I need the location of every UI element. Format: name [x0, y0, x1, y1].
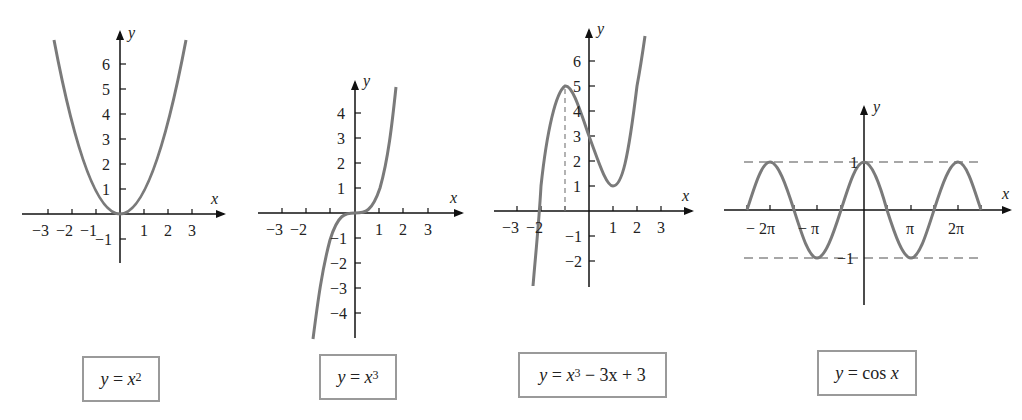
svg-text:1: 1 — [337, 180, 345, 197]
y-axis-label: y — [126, 24, 136, 42]
svg-text:3: 3 — [188, 222, 196, 239]
svg-text:−2: −2 — [56, 222, 73, 239]
svg-text:x: x — [1001, 185, 1009, 202]
svg-text:5: 5 — [102, 81, 110, 98]
svg-text:x: x — [449, 189, 457, 206]
svg-text:1: 1 — [140, 222, 148, 239]
svg-text:π: π — [906, 220, 914, 237]
svg-text:6: 6 — [102, 56, 110, 73]
svg-text:−1: −1 — [95, 231, 112, 248]
svg-text:−1: −1 — [330, 230, 347, 247]
plot-x-squared: y x −3 −2 −1 1 2 3 1 2 3 4 5 6 −1 — [22, 24, 224, 263]
svg-text:−3: −3 — [502, 219, 519, 236]
svg-text:x: x — [681, 187, 689, 204]
svg-text:−3: −3 — [330, 280, 347, 297]
svg-text:y: y — [361, 72, 371, 90]
svg-text:4: 4 — [573, 103, 581, 120]
svg-text:−1: −1 — [565, 228, 582, 245]
svg-text:2: 2 — [399, 221, 407, 238]
svg-text:2: 2 — [102, 156, 110, 173]
svg-text:5: 5 — [573, 78, 581, 95]
svg-text:3: 3 — [573, 128, 581, 145]
svg-text:1: 1 — [609, 219, 617, 236]
svg-text:2: 2 — [633, 219, 641, 236]
svg-text:3: 3 — [337, 130, 345, 147]
svg-text:y: y — [595, 20, 605, 38]
caption-cubic-poly: y = x3 − 3x + 3 — [518, 352, 667, 398]
svg-text:−2: −2 — [526, 219, 543, 236]
svg-text:1: 1 — [102, 181, 110, 198]
svg-text:2: 2 — [337, 155, 345, 172]
plot-x-cubed: y x −3 −2 1 2 3 1 2 3 4 −1 −2 −3 −4 — [258, 72, 462, 339]
svg-text:2π: 2π — [948, 220, 964, 237]
plot-cosine: y x − 2π − π π 2π 1 −1 — [724, 98, 1010, 305]
svg-text:−2: −2 — [290, 221, 307, 238]
svg-text:3: 3 — [102, 131, 110, 148]
caption-cosine: y = cos x — [817, 350, 917, 396]
plot-cubic-poly: y x −3 −2 1 2 3 1 2 3 4 5 6 −1 −2 — [494, 20, 692, 287]
svg-text:1: 1 — [573, 178, 581, 195]
svg-text:1: 1 — [850, 154, 858, 171]
svg-text:− 2π: − 2π — [746, 220, 775, 237]
x-axis-label: x — [210, 190, 218, 207]
svg-text:−4: −4 — [330, 305, 347, 322]
svg-text:−3: −3 — [266, 221, 283, 238]
svg-text:4: 4 — [337, 105, 345, 122]
svg-text:2: 2 — [164, 222, 172, 239]
y-ticks — [589, 61, 595, 261]
svg-text:2: 2 — [573, 153, 581, 170]
svg-text:−2: −2 — [330, 255, 347, 272]
svg-text:−3: −3 — [32, 222, 49, 239]
svg-text:3: 3 — [657, 219, 665, 236]
svg-text:1: 1 — [375, 221, 383, 238]
svg-text:6: 6 — [573, 53, 581, 70]
svg-text:− π: − π — [798, 220, 819, 237]
svg-text:−1: −1 — [837, 250, 854, 267]
svg-text:3: 3 — [424, 221, 432, 238]
caption-x-cubed: y = x3 — [319, 354, 397, 400]
caption-x-squared: y = x2 — [82, 356, 160, 402]
svg-text:4: 4 — [102, 106, 110, 123]
svg-text:y: y — [871, 98, 881, 116]
svg-text:−2: −2 — [565, 253, 582, 270]
